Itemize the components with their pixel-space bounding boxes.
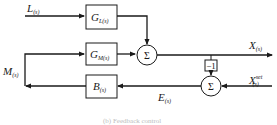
block-process-transfer: GM(s) bbox=[86, 43, 117, 65]
manipulated-path bbox=[25, 54, 84, 86]
svg-text:L(s): L(s) bbox=[26, 2, 39, 16]
load-input: L(s) bbox=[25, 2, 84, 16]
figure-caption: (b) Feedback control bbox=[103, 117, 161, 125]
summing-junction-2: Σ bbox=[201, 76, 221, 96]
block-load-transfer: GL(s) bbox=[86, 5, 117, 29]
svg-text:Σ: Σ bbox=[144, 50, 150, 61]
output-label: X(s) bbox=[248, 39, 262, 53]
block-diagram: L(s) GL(s) M(s) GM(s) Σ X(s) −1 Σ Xset(s… bbox=[0, 0, 277, 125]
block-negation: −1 bbox=[205, 60, 217, 71]
error-label: E(s) bbox=[157, 91, 171, 105]
svg-text:Σ: Σ bbox=[208, 81, 214, 92]
load-path bbox=[117, 16, 147, 44]
manipulated-label: M(s) bbox=[2, 65, 19, 79]
svg-text:−1: −1 bbox=[206, 61, 216, 71]
block-controller: B(s) bbox=[86, 75, 117, 98]
summing-junction-1: Σ bbox=[137, 45, 157, 65]
